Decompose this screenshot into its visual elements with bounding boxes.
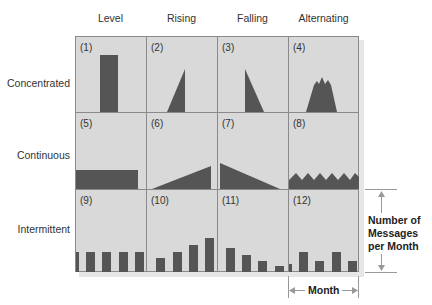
cell-falling-continuous: (7) <box>218 113 288 189</box>
column-header-falling: Falling <box>217 12 288 24</box>
cell-alternating-intermittent: (12) <box>289 190 359 272</box>
y-axis-line-2: Messages <box>368 227 421 240</box>
column-header-rising: Rising <box>146 12 217 24</box>
column-header-alternating: Alternating <box>288 12 359 24</box>
y-axis-annotation: Number of Messages per Month <box>368 214 421 253</box>
cell-alternating-concentrated: (4) <box>289 37 359 112</box>
cell-level-concentrated: (1) <box>76 37 146 112</box>
arrow-right-icon <box>352 287 358 294</box>
x-axis-right-tick <box>358 276 359 298</box>
pattern-grid: (1) (2) (3) (4) (5) (6) (7) <box>75 36 359 272</box>
arrow-down-icon <box>378 265 385 271</box>
alternating-concentrated-shape <box>289 37 359 112</box>
rising-continuous-shape <box>147 113 217 189</box>
rising-intermittent-bars <box>147 190 217 272</box>
rising-concentrated-shape <box>147 37 217 112</box>
column-header-level: Level <box>75 12 146 24</box>
arrow-left-icon <box>289 287 295 294</box>
row-label-intermittent: Intermittent <box>0 223 70 235</box>
y-axis-line-3: per Month <box>368 240 421 253</box>
falling-concentrated-shape <box>218 37 288 112</box>
cell-rising-concentrated: (2) <box>147 37 217 112</box>
cell-falling-intermittent: (11) <box>218 190 288 272</box>
row-label-continuous: Continuous <box>0 149 70 161</box>
y-axis-top-tick <box>365 189 397 190</box>
row-label-concentrated: Concentrated <box>0 77 70 89</box>
alternating-intermittent-bars <box>289 190 359 272</box>
cell-falling-concentrated: (3) <box>218 37 288 112</box>
y-axis-bottom-tick <box>365 272 397 273</box>
level-continuous-shape <box>76 113 146 189</box>
level-concentrated-shape <box>76 37 146 112</box>
arrow-up-icon <box>378 191 385 197</box>
cell-alternating-continuous: (8) <box>289 113 359 189</box>
falling-intermittent-bars <box>218 190 288 272</box>
x-axis-label: Month <box>308 284 340 297</box>
alternating-continuous-shape <box>289 113 359 189</box>
cell-rising-intermittent: (10) <box>147 190 217 272</box>
cell-level-intermittent: (9) <box>76 190 146 272</box>
falling-continuous-shape <box>218 113 288 189</box>
cell-rising-continuous: (6) <box>147 113 217 189</box>
y-axis-line-1: Number of <box>368 214 421 227</box>
level-intermittent-bars <box>76 190 146 272</box>
cell-level-continuous: (5) <box>76 113 146 189</box>
